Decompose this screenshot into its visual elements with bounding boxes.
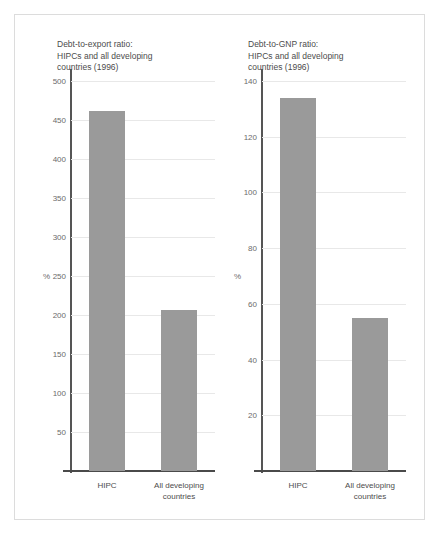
y-tick-label: 300 xyxy=(53,233,66,242)
bar xyxy=(352,318,388,471)
bars xyxy=(71,81,215,471)
y-tick-label: 50 xyxy=(57,428,66,437)
category-label: HIPC xyxy=(71,480,143,491)
figure-frame: Debt-to-export ratio: HIPCs and all deve… xyxy=(14,14,425,520)
category-labels: HIPCAll developing countries xyxy=(71,471,215,511)
category-labels: HIPCAll developing countries xyxy=(262,471,406,511)
bar xyxy=(89,111,125,471)
category-label: All developing countries xyxy=(334,480,406,502)
y-axis-unit-label: % xyxy=(43,272,50,281)
y-tick-label: 150 xyxy=(53,350,66,359)
y-tick-label: 140 xyxy=(244,77,257,86)
y-axis-unit-label: % xyxy=(234,272,241,281)
y-tick-label: 200 xyxy=(53,311,66,320)
category-label: HIPC xyxy=(262,480,334,491)
y-tick-label: 450 xyxy=(53,116,66,125)
chart-title: Debt-to-export ratio: HIPCs and all deve… xyxy=(57,39,222,74)
plot-area: 50100150200250300350400450500 HIPCAll de… xyxy=(71,81,215,471)
chart-panel-debt-to-gnp: Debt-to-GNP ratio: HIPCs and all develop… xyxy=(216,15,416,519)
y-tick-label: 400 xyxy=(53,155,66,164)
bars xyxy=(262,81,406,471)
chart-title: Debt-to-GNP ratio: HIPCs and all develop… xyxy=(248,39,413,74)
y-tick-label: 100 xyxy=(244,188,257,197)
y-tick-label: 500 xyxy=(53,77,66,86)
category-label: All developing countries xyxy=(143,480,215,502)
bar xyxy=(161,310,197,471)
y-tick-label: 100 xyxy=(53,389,66,398)
y-tick-label: 250 xyxy=(53,272,66,281)
y-tick-label: 80 xyxy=(248,244,257,253)
chart-panel-debt-to-export: Debt-to-export ratio: HIPCs and all deve… xyxy=(25,15,225,519)
y-tick-label: 60 xyxy=(248,299,257,308)
y-tick-label: 350 xyxy=(53,194,66,203)
chart-panels: Debt-to-export ratio: HIPCs and all deve… xyxy=(15,15,424,519)
y-tick-label: 40 xyxy=(248,355,257,364)
y-tick-label: 120 xyxy=(244,132,257,141)
y-tick-label: 20 xyxy=(248,411,257,420)
bar xyxy=(280,98,316,471)
plot-area: 20406080100120140 HIPCAll developing cou… xyxy=(262,81,406,471)
